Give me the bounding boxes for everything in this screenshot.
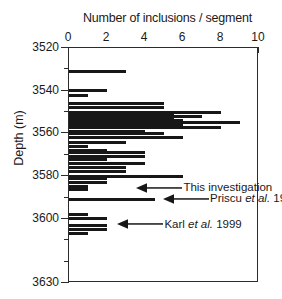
- y-axis-tick-label: 3580: [32, 168, 59, 182]
- bar: [69, 106, 164, 109]
- annotation-label: Priscu et al. 1999: [210, 193, 282, 205]
- bar: [69, 177, 107, 180]
- bar: [69, 166, 126, 169]
- annotation-arrow-icon: [163, 193, 209, 205]
- annotation-label: Karl et al. 1999: [164, 219, 241, 231]
- x-axis-tick-label: 2: [103, 30, 110, 44]
- bar: [69, 198, 155, 201]
- bar: [69, 181, 107, 184]
- y-axis-tick-label: 3630: [32, 275, 59, 289]
- x-axis-tick-label: 8: [217, 30, 224, 44]
- y-axis-tick: [61, 282, 69, 283]
- bar: [69, 170, 126, 173]
- y-axis-tick-label: 3540: [32, 83, 59, 97]
- bar: [69, 141, 126, 144]
- bar: [69, 136, 183, 139]
- bar: [69, 89, 107, 92]
- y-axis-tick-label: 3560: [32, 125, 59, 139]
- chart-title: Number of inclusions / segment: [55, 11, 280, 25]
- bar: [69, 94, 88, 97]
- bar: [69, 158, 107, 161]
- bar: [69, 224, 107, 227]
- bar: [69, 217, 107, 220]
- x-axis-tick-label: 0: [65, 30, 72, 44]
- bar: [69, 145, 88, 148]
- bar: [69, 102, 164, 105]
- y-axis-tick-label: 3600: [32, 211, 59, 225]
- x-axis-tick-label: 10: [251, 30, 264, 44]
- annotation-3: Karl et al. 1999: [117, 218, 241, 230]
- bar-series: [69, 48, 257, 281]
- y-axis-label: Depth (m): [12, 83, 26, 193]
- plot-area: [68, 47, 258, 282]
- bar: [69, 162, 145, 165]
- x-axis-tick-label: 4: [141, 30, 148, 44]
- figure-inclusions-vs-depth: Number of inclusions / segment Depth (m)…: [0, 0, 282, 299]
- bar: [69, 188, 88, 191]
- bar: [69, 132, 164, 135]
- bar: [69, 70, 126, 73]
- y-axis-tick-label: 3520: [32, 40, 59, 54]
- annotation-arrow-icon: [117, 218, 163, 230]
- bar: [69, 213, 88, 216]
- bar: [69, 232, 88, 235]
- bar: [69, 151, 145, 154]
- bar: [69, 126, 221, 129]
- x-axis-tick: [258, 47, 259, 53]
- annotation-2: Priscu et al. 1999: [163, 193, 282, 205]
- bar: [69, 228, 107, 231]
- x-axis-tick-label: 6: [179, 30, 186, 44]
